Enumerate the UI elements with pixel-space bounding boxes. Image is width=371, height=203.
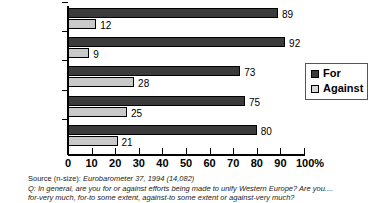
legend-label-against: Against [323, 83, 363, 94]
x-tick-label: 70 [227, 157, 239, 169]
x-tick-label: 10 [85, 157, 97, 169]
x-tick-label: 0 [65, 157, 71, 169]
question-note-line1: Q: In general, are you for or against ef… [28, 184, 371, 194]
x-tick-label: 30 [133, 157, 145, 169]
x-tick [68, 148, 69, 155]
footnotes: Source (n-size): Eurobarometer 37, 1994 … [28, 174, 371, 203]
legend-label-for: For [323, 68, 341, 79]
source-label: Source (n-size): [28, 174, 83, 183]
bar-against [68, 19, 96, 29]
bar-value-label: 73 [244, 67, 255, 78]
bar-for [68, 8, 278, 18]
bar-for [68, 37, 285, 47]
bar-value-label: 89 [282, 9, 293, 20]
y-tick [62, 90, 68, 91]
bar-value-label: 12 [100, 20, 111, 31]
source-note: Source (n-size): Eurobarometer 37, 1994 … [28, 174, 371, 184]
x-tick [304, 148, 305, 155]
bar-value-label: 9 [93, 49, 99, 60]
bar-against [68, 107, 127, 117]
x-tick-label: 20 [109, 157, 121, 169]
y-tick [62, 31, 68, 32]
source-value: Eurobarometer 37, 1994 (14,082) [83, 174, 194, 183]
bar-against [68, 136, 118, 146]
y-tick [62, 60, 68, 61]
x-tick [92, 148, 93, 155]
legend-swatch-for-icon [311, 70, 319, 78]
y-tick [62, 2, 68, 3]
chart-legend: For Against [305, 63, 368, 100]
x-tick-label: 60 [203, 157, 215, 169]
x-tick [115, 148, 116, 155]
bar-chart: 0102030405060708090100% Catholic8912Orth… [0, 0, 371, 203]
bar-value-label: 25 [131, 108, 142, 119]
x-tick-label: 80 [251, 157, 263, 169]
bar-for [68, 125, 257, 135]
bar-value-label: 21 [122, 137, 133, 148]
x-tick-label: 50 [180, 157, 192, 169]
x-tick [233, 148, 234, 155]
x-tick [186, 148, 187, 155]
x-tick [257, 148, 258, 155]
x-tick [280, 148, 281, 155]
x-tick-label: 100% [296, 157, 324, 169]
legend-swatch-against-icon [311, 85, 319, 93]
bar-against [68, 77, 134, 87]
bar-value-label: 28 [138, 78, 149, 89]
x-tick-label: 40 [156, 157, 168, 169]
bar-for [68, 96, 245, 106]
bar-value-label: 75 [249, 97, 260, 108]
question-note-line2: for-very much, for-to some extent, again… [28, 193, 371, 203]
bar-against [68, 48, 89, 58]
x-tick [139, 148, 140, 155]
bar-value-label: 80 [261, 126, 272, 137]
x-tick [210, 148, 211, 155]
legend-item-for: For [311, 68, 367, 79]
x-tick-label: 90 [274, 157, 286, 169]
legend-item-against: Against [311, 83, 367, 94]
y-tick [62, 119, 68, 120]
bar-value-label: 92 [289, 38, 300, 49]
bar-for [68, 66, 240, 76]
x-tick [162, 148, 163, 155]
